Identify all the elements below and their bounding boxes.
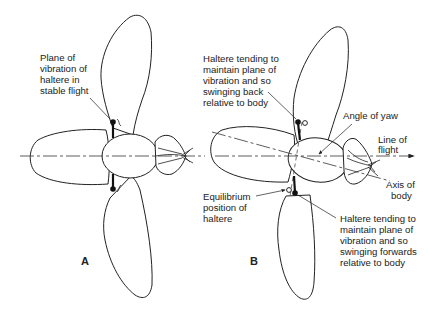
panel-label-a: A (81, 255, 89, 267)
panel-label-b: B (250, 255, 258, 267)
fly-b-upper-haltere-knob-back (295, 119, 301, 125)
fly-a-abdomen (30, 129, 109, 184)
leader-swinging-back (268, 92, 296, 119)
fly-a-lower-wing (104, 176, 153, 298)
label-plane-of-vibration: Plane of vibration of haltere in stable … (40, 52, 90, 96)
label-swinging-back: Haltere tending to maintain plane of vib… (203, 53, 281, 108)
label-line-of-flight: Line of flight (378, 134, 409, 155)
leader-equilibrium (256, 190, 285, 196)
label-equilibrium-position: Equilibrium position of haltere (203, 191, 253, 224)
label-swinging-forwards: Haltere tending to maintain plane of vib… (340, 213, 419, 268)
fly-a-lower-haltere-knob (110, 186, 116, 192)
haltere-yaw-diagram: Plane of vibration of haltere in stable … (0, 0, 430, 317)
label-angle-of-yaw: Angle of yaw (343, 110, 398, 121)
fly-b-lower-haltere-knob-forward (292, 190, 298, 196)
fly-b-head (343, 138, 372, 184)
panel-a: Plane of vibration of haltere in stable … (20, 15, 205, 297)
fly-b-lower-haltere-equilibrium (287, 188, 292, 193)
panel-b: Haltere tending to maintain plane of vib… (203, 27, 419, 299)
fly-b-upper-wing (293, 27, 348, 150)
fly-b-upper-haltere-equilibrium (303, 121, 308, 126)
label-axis-of-body: Axis of body (386, 179, 417, 201)
fly-a-upper-haltere-knob (110, 119, 116, 125)
fly-b-lower-wing (278, 195, 315, 299)
